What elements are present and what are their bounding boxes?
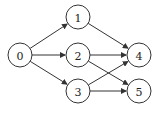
node-0: 0: [8, 43, 32, 67]
node-1: 1: [66, 5, 90, 29]
node-label: 2: [75, 50, 82, 63]
edge-1-to-4: [88, 23, 128, 48]
node-label: 4: [136, 50, 143, 63]
node-label: 0: [17, 50, 24, 63]
node-label: 3: [75, 86, 82, 99]
node-label: 5: [136, 86, 143, 99]
edge-0-to-1: [30, 24, 67, 48]
nodes-layer: 012345: [8, 5, 151, 103]
graph-canvas: 012345: [0, 0, 156, 118]
node-label: 1: [75, 12, 82, 25]
node-2: 2: [66, 43, 90, 67]
node-4: 4: [127, 43, 151, 67]
edge-0-to-3: [30, 61, 67, 84]
node-5: 5: [127, 79, 151, 103]
node-3: 3: [66, 79, 90, 103]
